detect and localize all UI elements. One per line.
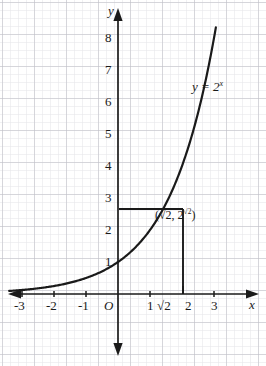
x-tick-minus-2: -2 (46, 299, 57, 312)
y-tick-3: 3 (105, 191, 112, 204)
point-close-paren: ) (191, 208, 195, 222)
x-tick-3: 3 (211, 299, 218, 312)
graph-figure: y x O 8 7 6 5 4 3 2 1 -3 -2 -1 1 √2 2 3 … (0, 0, 266, 366)
x-tick-sqrt2: √2 (157, 299, 171, 312)
y-tick-4: 4 (105, 159, 112, 172)
x-tick-minus-3: -3 (14, 299, 25, 312)
function-label-base: y = 2 (192, 79, 220, 94)
y-tick-5: 5 (105, 127, 112, 140)
x-tick-1: 1 (147, 299, 154, 312)
y-tick-6: 6 (105, 95, 112, 108)
origin-label: O (104, 299, 113, 312)
function-label-exponent: x (220, 79, 224, 88)
marked-point-label: (√2, 2√2) (155, 208, 195, 221)
major-gridlines (0, 0, 266, 366)
x-tick-2: 2 (185, 299, 192, 312)
x-axis-label: x (249, 298, 255, 311)
y-tick-7: 7 (105, 63, 112, 76)
y-tick-2: 2 (105, 223, 112, 236)
graph-canvas (0, 0, 266, 366)
y-tick-8: 8 (105, 31, 112, 44)
x-tick-minus-1: -1 (78, 299, 89, 312)
function-label: y = 2x (192, 80, 223, 93)
y-axis-label: y (108, 4, 114, 17)
y-tick-1: 1 (105, 255, 112, 268)
point-x-value: √2 (159, 208, 172, 222)
